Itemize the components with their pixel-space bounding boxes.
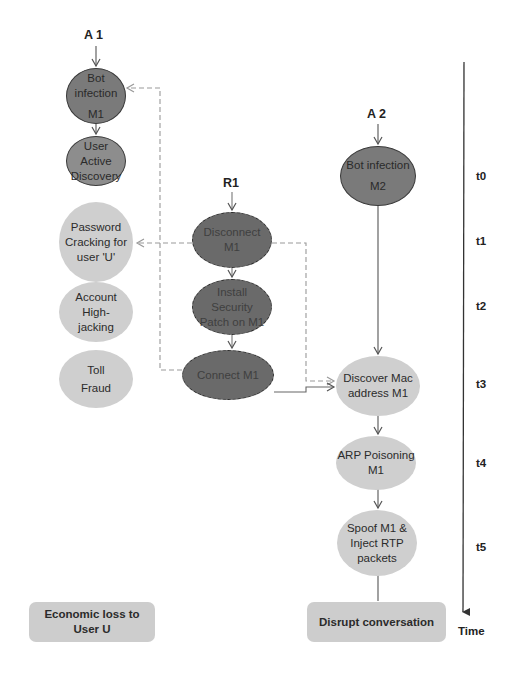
outcome-economic-loss: Economic loss toUser U <box>29 602 155 642</box>
node-arp-poisoning: ARP PoisoningM1 <box>336 436 416 490</box>
time-tick-t4: t4 <box>476 457 486 469</box>
node-account-highjacking: AccountHigh-jacking <box>59 282 133 342</box>
node-password-cracking: PasswordCracking foruser 'U' <box>59 202 133 282</box>
node-discover-mac: Discover Macaddress M1 <box>336 356 420 416</box>
node-spoof-inject-rtp: Spoof M1 &Inject RTPpackets <box>337 510 417 576</box>
outcome-disrupt-conversation: Disrupt conversation <box>307 602 446 642</box>
node-bot-infection-m1: Bot infectionM1 <box>66 68 126 124</box>
time-tick-t3: t3 <box>476 378 486 390</box>
time-tick-t5: t5 <box>476 541 486 553</box>
actor-a1-label: A 1 <box>84 28 103 42</box>
time-axis-label: Time <box>458 625 485 637</box>
node-connect-m1: Connect M1 <box>182 350 274 400</box>
actor-r1-label: R1 <box>223 176 239 190</box>
actor-a2-label: A 2 <box>367 107 386 121</box>
node-disconnect-m1: DisconnectM1 <box>192 212 272 268</box>
time-tick-t0: t0 <box>476 170 486 182</box>
node-bot-infection-m2: Bot infectionM2 <box>340 146 416 206</box>
time-tick-t1: t1 <box>476 235 486 247</box>
node-toll-fraud: TollFraud <box>59 350 133 408</box>
dashed-reinfect-edge <box>127 88 182 370</box>
time-axis <box>463 62 464 612</box>
connect-discover-edge <box>274 387 334 392</box>
node-user-active-discovery: User ActiveDiscovery <box>66 136 126 186</box>
dashed-discover-edge <box>272 243 334 381</box>
time-tick-t2: t2 <box>476 300 486 312</box>
node-install-security-patch: InstallSecurityPatch on M1 <box>192 279 272 335</box>
